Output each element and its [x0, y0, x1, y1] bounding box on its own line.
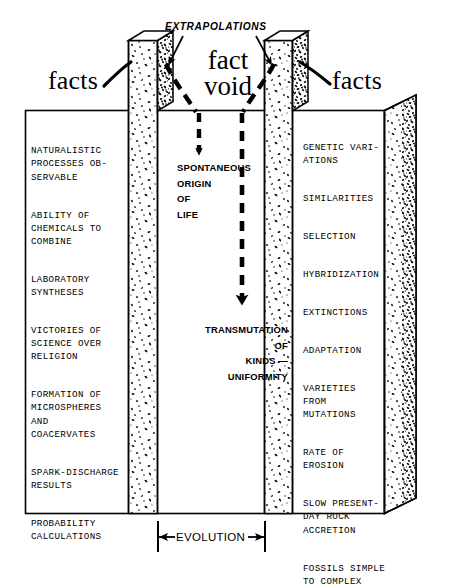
list-item: NATURALISTIC PROCESSES OB- SERVABLE: [31, 144, 127, 184]
list-item: EXTINCTIONS: [303, 306, 407, 319]
list-item: HYBRIDIZATION: [303, 268, 407, 281]
list-item: SLOW PRESENT- DAY ROCK ACCRETION: [303, 497, 407, 537]
fact-void-label: fact void: [187, 47, 269, 99]
list-item: VICTORIES OF SCIENCE OVER RELIGION: [31, 324, 127, 364]
left-facts-column: NATURALISTIC PROCESSES OB- SERVABLE ABIL…: [31, 131, 127, 568]
list-item: ADAPTATION: [303, 344, 407, 357]
list-item: ABILITY OF CHEMICALS TO COMBINE: [31, 209, 127, 249]
list-item: RATE OF EROSION: [303, 446, 407, 472]
list-item: SPARK-DISCHARGE RESULTS: [31, 466, 127, 492]
facts-left-pointer: [104, 62, 131, 86]
right-facts-column: GENETIC VARI- ATIONS SIMILARITIES SELECT…: [303, 128, 407, 588]
facts-label-right: facts: [332, 66, 382, 96]
list-item: SIMILARITIES: [303, 192, 407, 205]
extrapolations-label: EXTRAPOLATIONS: [165, 21, 267, 32]
facts-label-left: facts: [48, 66, 98, 96]
evolution-label: EVOLUTION: [176, 531, 245, 543]
right-pillar-side-face: [293, 31, 309, 111]
list-item: VARIETIES FROM MUTATIONS: [303, 382, 407, 422]
list-item: FOSSILS SIMPLE TO COMPLEX: [303, 562, 407, 588]
transmutation-of-kinds-label: TRANSMUTATION OF KINDS — UNIFORMITY: [170, 322, 288, 384]
list-item: GENETIC VARI- ATIONS: [303, 141, 407, 167]
spontaneous-origin-of-life-label: SPONTANEOUS ORIGIN OF LIFE: [177, 160, 251, 222]
list-item: PROBABILITY CALCULATIONS: [31, 517, 127, 543]
list-item: SELECTION: [303, 230, 407, 243]
list-item: LABORATORY SYNTHESES: [31, 273, 127, 299]
list-item: FORMATION OF MICROSPHERES AND COACERVATE…: [31, 388, 127, 441]
